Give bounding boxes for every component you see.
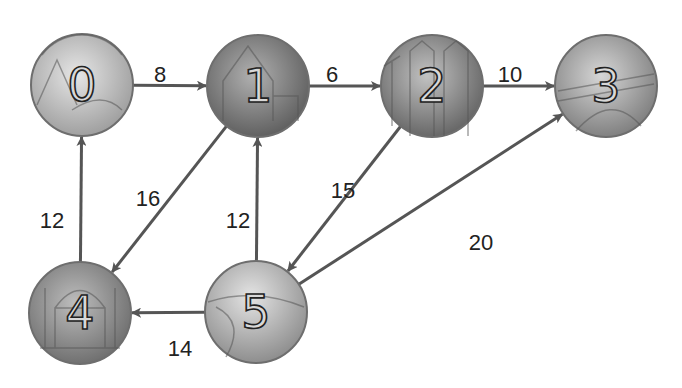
edge-1-to-4	[112, 126, 226, 272]
edge-weight-label: 6	[326, 62, 338, 87]
edge-weight-label: 10	[498, 62, 522, 87]
edge-weight-label: 12	[226, 208, 250, 233]
node-2: 2	[381, 35, 483, 137]
edge-5-to-1	[256, 138, 257, 261]
node-number-label: 0	[67, 58, 96, 112]
node-number-label: 5	[241, 285, 270, 339]
edge-weight-label: 8	[154, 62, 166, 87]
node-3: 3	[555, 35, 657, 137]
node-4: 4	[29, 262, 131, 364]
node-number-label: 1	[243, 59, 272, 113]
edge-weight-label: 14	[168, 336, 192, 361]
edge-4-to-0	[80, 137, 81, 262]
graph-diagram: 012345 8610161212152014	[0, 0, 682, 388]
node-number-label: 4	[65, 286, 94, 340]
node-number-label: 2	[417, 59, 446, 113]
node-5: 5	[205, 261, 307, 363]
edge-weight-label: 16	[136, 186, 160, 211]
node-1: 1	[207, 35, 309, 137]
edge-weight-label: 15	[331, 178, 355, 203]
node-0: 0	[31, 34, 133, 136]
node-number-label: 3	[591, 59, 620, 113]
edge-weight-label: 20	[469, 230, 493, 255]
edge-weight-label: 12	[40, 208, 64, 233]
